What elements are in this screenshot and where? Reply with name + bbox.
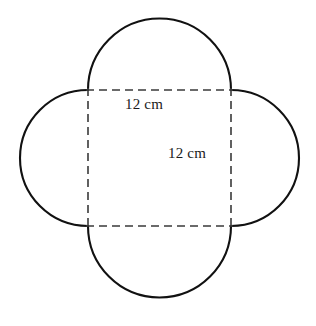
width-dimension-label: 12 cm — [125, 97, 163, 112]
height-dimension-label: 12 cm — [168, 146, 206, 161]
geometry-figure: 12 cm 12 cm — [0, 0, 316, 326]
quatrefoil-diagram — [0, 0, 316, 326]
figure-background — [0, 0, 316, 326]
